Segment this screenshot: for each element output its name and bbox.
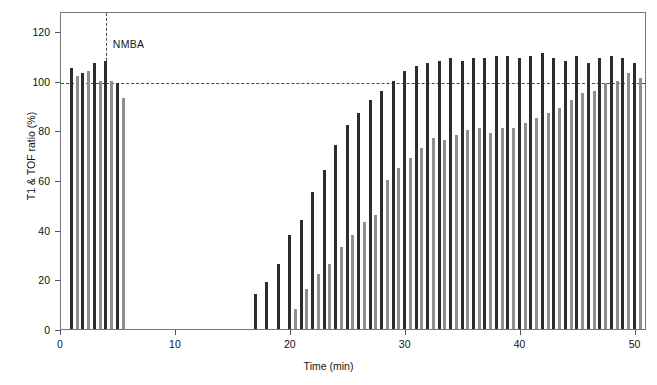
bar	[415, 66, 418, 329]
bar	[70, 68, 73, 329]
bar	[639, 78, 642, 329]
bar	[409, 158, 412, 329]
bar	[552, 58, 555, 329]
bar	[300, 220, 303, 329]
bar	[76, 76, 79, 329]
bar	[478, 128, 481, 329]
bar	[305, 289, 308, 329]
y-tick-label: 120	[0, 26, 50, 38]
bar	[346, 125, 349, 329]
bar	[403, 71, 406, 329]
x-tick-mark	[175, 330, 176, 335]
bar	[593, 91, 596, 330]
bar	[529, 56, 532, 329]
bar	[426, 63, 429, 329]
bar	[455, 135, 458, 329]
bar	[558, 108, 561, 329]
bar	[334, 145, 337, 329]
bar	[621, 58, 624, 329]
bar	[392, 81, 395, 329]
bar	[323, 170, 326, 329]
bar	[351, 235, 354, 329]
x-tick-mark	[290, 330, 291, 335]
bar	[604, 83, 607, 329]
bar	[87, 71, 90, 329]
y-axis-label: T1 & TOF ratio (%)	[25, 71, 37, 241]
annotation-nmba-label: NMBA	[113, 38, 145, 50]
bar	[483, 58, 486, 329]
bar	[380, 91, 383, 330]
bar	[535, 118, 538, 329]
bar	[489, 133, 492, 329]
y-tick-label: 20	[0, 274, 50, 286]
bar	[564, 61, 567, 329]
bar	[386, 180, 389, 329]
bar	[363, 222, 366, 329]
bar	[461, 61, 464, 329]
y-tick-label: 40	[0, 225, 50, 237]
reference-line-horizontal	[61, 83, 645, 84]
bar	[420, 148, 423, 329]
bar	[449, 58, 452, 329]
bar	[397, 168, 400, 329]
bar	[512, 128, 515, 329]
y-tick-label: 80	[0, 125, 50, 137]
bar	[369, 100, 372, 329]
bar	[547, 113, 550, 329]
bar	[541, 53, 544, 329]
bar	[627, 73, 630, 329]
bar	[472, 58, 475, 329]
x-tick-label: 0	[57, 338, 63, 350]
bar	[616, 81, 619, 329]
x-tick-label: 40	[514, 338, 526, 350]
bar	[443, 140, 446, 329]
bar	[110, 81, 113, 329]
bar	[294, 309, 297, 329]
x-axis-label: Time (min)	[0, 360, 657, 372]
bar	[99, 81, 102, 329]
bar	[93, 63, 96, 329]
bar	[587, 63, 590, 329]
bar	[340, 247, 343, 329]
y-tick-label: 60	[0, 175, 50, 187]
bar	[317, 274, 320, 329]
bar	[288, 235, 291, 329]
x-tick-label: 50	[629, 338, 641, 350]
bar	[524, 123, 527, 329]
bar	[357, 113, 360, 329]
y-tick-label: 0	[0, 324, 50, 336]
bar	[116, 83, 119, 329]
x-tick-mark	[520, 330, 521, 335]
bar	[265, 282, 268, 329]
bar	[277, 264, 280, 329]
bar	[570, 100, 573, 329]
bar	[466, 130, 469, 329]
x-tick-label: 20	[284, 338, 296, 350]
bar	[104, 61, 107, 329]
bar	[328, 264, 331, 329]
bar	[575, 56, 578, 329]
bar	[506, 56, 509, 329]
bar	[81, 73, 84, 329]
x-tick-mark	[60, 330, 61, 335]
bar	[254, 294, 257, 329]
x-tick-mark	[635, 330, 636, 335]
y-tick-label: 100	[0, 76, 50, 88]
bar	[633, 63, 636, 329]
bar	[432, 138, 435, 329]
bar	[495, 56, 498, 329]
bar	[501, 128, 504, 329]
bar	[518, 58, 521, 329]
plot-area: NMBA	[60, 12, 646, 330]
bar	[438, 61, 441, 329]
x-tick-mark	[405, 330, 406, 335]
x-tick-label: 30	[399, 338, 411, 350]
bar	[610, 56, 613, 329]
bar	[598, 58, 601, 329]
bar	[311, 192, 314, 329]
bar	[374, 215, 377, 329]
bar	[581, 93, 584, 329]
chart-figure: T1 & TOF ratio (%) 020406080100120 01020…	[0, 0, 657, 385]
x-tick-label: 10	[169, 338, 181, 350]
bar	[122, 98, 125, 329]
